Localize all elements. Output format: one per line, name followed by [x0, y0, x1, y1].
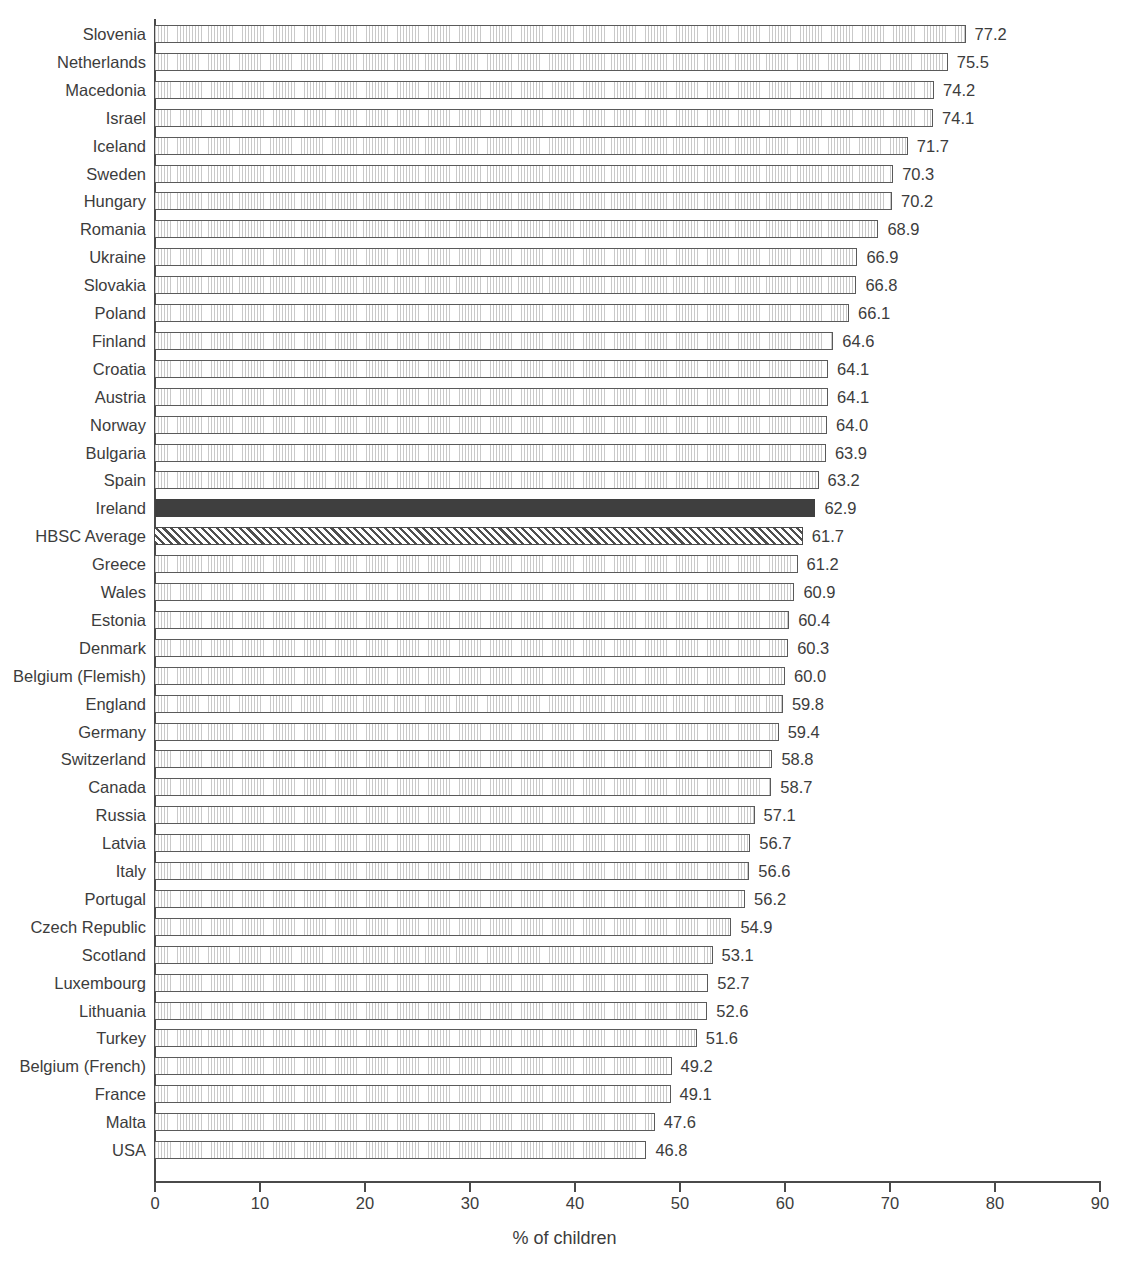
bar[interactable]	[155, 611, 789, 629]
bar-row[interactable]: Macedonia74.2	[0, 77, 1129, 103]
bar-row[interactable]: Wales60.9	[0, 579, 1129, 605]
bar-track	[155, 384, 828, 410]
bar-row[interactable]: Ukraine66.9	[0, 244, 1129, 270]
bar[interactable]	[155, 81, 934, 99]
x-axis-tick-label: 10	[230, 1194, 290, 1213]
bar[interactable]	[155, 109, 933, 127]
bar[interactable]	[155, 53, 948, 71]
bar-row[interactable]: Spain63.2	[0, 467, 1129, 493]
bar[interactable]	[155, 388, 828, 406]
bar-row[interactable]: Israel74.1	[0, 105, 1129, 131]
bar-row[interactable]: Belgium (Flemish)60.0	[0, 663, 1129, 689]
bar-row[interactable]: Norway64.0	[0, 412, 1129, 438]
bar-row[interactable]: Latvia56.7	[0, 830, 1129, 856]
bar-row[interactable]: Iceland71.7	[0, 133, 1129, 159]
bar-row[interactable]: Czech Republic54.9	[0, 914, 1129, 940]
bar[interactable]	[155, 1085, 671, 1103]
bar[interactable]	[155, 165, 893, 183]
bar[interactable]	[155, 667, 785, 685]
x-axis-tick	[364, 1183, 366, 1192]
bar[interactable]	[155, 890, 745, 908]
bar[interactable]	[155, 555, 798, 573]
bar[interactable]	[155, 1057, 672, 1075]
bar[interactable]	[155, 1002, 707, 1020]
category-label: Portugal	[0, 886, 146, 912]
bar[interactable]	[155, 918, 731, 936]
category-label: Switzerland	[0, 746, 146, 772]
bar[interactable]	[155, 834, 750, 852]
bar-row[interactable]: Poland66.1	[0, 300, 1129, 326]
bar[interactable]	[155, 192, 892, 210]
bar[interactable]	[155, 25, 966, 43]
x-axis-tick-label: 90	[1070, 1194, 1129, 1213]
bar-row[interactable]: Russia57.1	[0, 802, 1129, 828]
bar-row[interactable]: Austria64.1	[0, 384, 1129, 410]
bar[interactable]	[155, 695, 783, 713]
bar-row[interactable]: Portugal56.2	[0, 886, 1129, 912]
bar-row[interactable]: Luxembourg52.7	[0, 970, 1129, 996]
bar-row[interactable]: Scotland53.1	[0, 942, 1129, 968]
bar[interactable]	[155, 1029, 697, 1047]
bar-row[interactable]: Switzerland58.8	[0, 746, 1129, 772]
bar-track	[155, 467, 819, 493]
bar[interactable]	[155, 220, 878, 238]
bar-row[interactable]: Sweden70.3	[0, 161, 1129, 187]
bar-track	[155, 607, 789, 633]
bar[interactable]	[155, 276, 856, 294]
bar[interactable]	[155, 778, 771, 796]
bar[interactable]	[155, 416, 827, 434]
bar-value-label: 47.6	[664, 1109, 696, 1135]
bar-row[interactable]: Netherlands75.5	[0, 49, 1129, 75]
bar-row[interactable]: Malta47.6	[0, 1109, 1129, 1135]
bar[interactable]	[155, 974, 708, 992]
bar-row[interactable]: Hungary70.2	[0, 188, 1129, 214]
bar-row[interactable]: Bulgaria63.9	[0, 440, 1129, 466]
bar-track	[155, 858, 749, 884]
bar-row[interactable]: Belgium (French)49.2	[0, 1053, 1129, 1079]
bar[interactable]	[155, 583, 794, 601]
category-label: Latvia	[0, 830, 146, 856]
bar-row[interactable]: USA46.8	[0, 1137, 1129, 1163]
bar[interactable]	[155, 1113, 655, 1131]
bar[interactable]	[155, 304, 849, 322]
bar-value-label: 60.0	[794, 663, 826, 689]
bar[interactable]	[155, 360, 828, 378]
bar-row[interactable]: Romania68.9	[0, 216, 1129, 242]
bar[interactable]	[155, 639, 788, 657]
bar[interactable]	[155, 1141, 646, 1159]
bar[interactable]	[155, 946, 713, 964]
bar-value-label: 52.7	[717, 970, 749, 996]
bar-row[interactable]: HBSC Average61.7	[0, 523, 1129, 549]
bar[interactable]	[155, 862, 749, 880]
category-label: France	[0, 1081, 146, 1107]
bar-row[interactable]: Slovakia66.8	[0, 272, 1129, 298]
bar-track	[155, 412, 827, 438]
bar-row[interactable]: Ireland62.9	[0, 495, 1129, 521]
bar-row[interactable]: Greece61.2	[0, 551, 1129, 577]
bar-row[interactable]: Germany59.4	[0, 719, 1129, 745]
bar-row[interactable]: France49.1	[0, 1081, 1129, 1107]
bar-row[interactable]: Italy56.6	[0, 858, 1129, 884]
bar-row[interactable]: Turkey51.6	[0, 1025, 1129, 1051]
bar[interactable]	[155, 471, 819, 489]
bar[interactable]	[155, 137, 908, 155]
bar-row[interactable]: Estonia60.4	[0, 607, 1129, 633]
bar-row[interactable]: England59.8	[0, 691, 1129, 717]
bar-row[interactable]: Finland64.6	[0, 328, 1129, 354]
bar[interactable]	[155, 499, 815, 517]
bar[interactable]	[155, 723, 779, 741]
bar[interactable]	[155, 806, 755, 824]
bar[interactable]	[155, 444, 826, 462]
bar[interactable]	[155, 248, 857, 266]
bar[interactable]	[155, 750, 772, 768]
bar-row[interactable]: Denmark60.3	[0, 635, 1129, 661]
category-label: Croatia	[0, 356, 146, 382]
bar[interactable]	[155, 332, 833, 350]
bar-track	[155, 21, 966, 47]
bar-row[interactable]: Lithuania52.6	[0, 998, 1129, 1024]
x-axis-tick	[889, 1183, 891, 1192]
bar-row[interactable]: Slovenia77.2	[0, 21, 1129, 47]
bar-row[interactable]: Canada58.7	[0, 774, 1129, 800]
bar[interactable]	[155, 527, 803, 545]
bar-row[interactable]: Croatia64.1	[0, 356, 1129, 382]
